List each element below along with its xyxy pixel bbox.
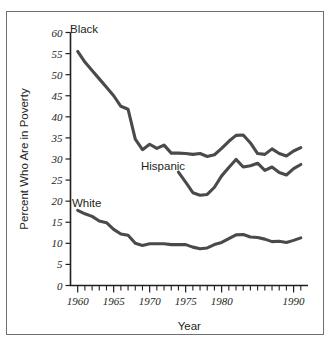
y-tick-label: 25	[52, 174, 64, 186]
x-tick-label: 1980	[211, 295, 234, 307]
y-tick-label: 50	[52, 69, 64, 81]
chart-plot-area: 0510152025303540455055601960196519701975…	[0, 0, 332, 346]
axis-lines	[71, 33, 309, 286]
y-tick-label: 15	[52, 216, 64, 228]
series-label-hispanic: Hispanic	[141, 160, 185, 172]
y-tick-label: 55	[52, 48, 64, 60]
y-tick-label: 10	[52, 237, 64, 249]
poverty-rate-chart-figure: 0510152025303540455055601960196519701975…	[0, 0, 332, 346]
x-tick-label: 1965	[103, 295, 126, 307]
y-tick-label: 20	[52, 195, 64, 207]
y-tick-label: 40	[52, 111, 64, 123]
x-axis-title: Year	[178, 320, 201, 332]
y-tick-label: 35	[51, 132, 64, 144]
x-tick-label: 1960	[67, 295, 90, 307]
y-tick-label: 60	[52, 27, 64, 39]
y-tick-label: 30	[51, 153, 64, 165]
series-label-white: White	[72, 197, 101, 209]
series-label-black: Black	[70, 23, 98, 35]
x-tick-label: 1990	[283, 295, 306, 307]
y-tick-label: 5	[57, 258, 63, 270]
x-tick-label: 1970	[139, 295, 162, 307]
x-tick-label: 1975	[175, 295, 198, 307]
y-tick-label: 45	[52, 90, 64, 102]
y-axis-title: Percent Who Are in Poverty	[18, 88, 30, 230]
series-line-hispanic	[178, 159, 300, 195]
series-line-white	[78, 210, 301, 248]
y-tick-label: 0	[57, 280, 63, 292]
series-line-black	[78, 51, 301, 156]
